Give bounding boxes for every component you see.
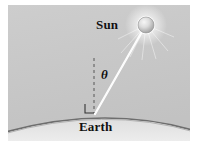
diagram-panel: Sun θ Earth <box>8 5 190 141</box>
sun-label: Sun <box>96 17 118 33</box>
figure-container: Sun θ Earth <box>0 0 198 147</box>
sun-sphere <box>138 17 154 33</box>
earth-label: Earth <box>79 119 113 135</box>
theta-angle-label: θ <box>101 67 108 83</box>
